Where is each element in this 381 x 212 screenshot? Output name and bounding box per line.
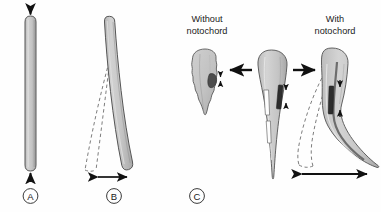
larva-with-notochord <box>298 48 379 174</box>
without-notochord-label: Without notochord <box>187 14 228 36</box>
with-notochord-label: With notochord <box>315 14 356 36</box>
larva-without-notochord <box>192 49 221 115</box>
muscle-block-right-icon <box>328 86 334 114</box>
diagram-canvas: A B <box>0 0 381 212</box>
panel-b-group: B <box>85 16 133 203</box>
panel-b-rod <box>104 16 132 170</box>
panel-c-group: Without notochord With notochord <box>187 14 379 203</box>
figure-root: A B <box>0 0 381 212</box>
panel-label-c-text: C <box>194 191 201 202</box>
panel-label-b: B <box>107 189 122 204</box>
without-notochord-label-line2: notochord <box>187 26 228 36</box>
panel-label-b-text: B <box>111 191 117 202</box>
panel-a-group: A <box>23 6 38 203</box>
tail-segment-notch-upper <box>264 90 270 115</box>
panel-b-dashed-outlines <box>85 60 110 171</box>
with-notochord-label-line2: notochord <box>315 26 356 36</box>
panel-a-rod <box>25 16 36 171</box>
tail-segment-notch-lower <box>266 121 271 143</box>
with-notochord-label-line1: With <box>326 14 344 24</box>
muscle-block-collapsed-icon <box>208 74 217 88</box>
larva-center-reference <box>258 50 287 179</box>
without-notochord-label-line1: Without <box>191 14 223 24</box>
panel-label-a-text: A <box>27 191 34 202</box>
panel-label-a: A <box>23 189 38 204</box>
panel-label-c: C <box>190 189 205 204</box>
